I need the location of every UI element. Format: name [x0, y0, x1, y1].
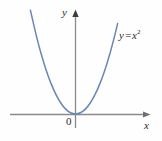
x-axis-label: x	[144, 120, 149, 131]
equation-exponent: 2	[137, 28, 141, 36]
y-axis-arrowhead	[72, 10, 78, 18]
graph-figure: y x 0 y=x2	[0, 0, 162, 141]
parabola-curve	[30, 10, 117, 114]
y-axis-label: y	[62, 7, 67, 18]
x-axis-arrowhead	[143, 111, 151, 117]
origin-label: 0	[66, 116, 72, 127]
equation-equals-sign: =	[124, 29, 132, 41]
curve-equation-label: y=x2	[119, 30, 141, 41]
plot-canvas	[0, 0, 162, 141]
